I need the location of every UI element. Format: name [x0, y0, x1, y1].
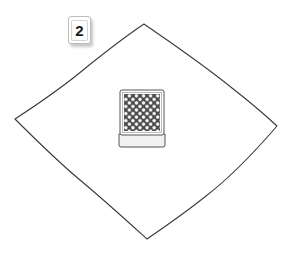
step-number-badge: 2	[68, 16, 91, 44]
instruction-illustration: 2	[0, 0, 289, 264]
play-area-diagram	[0, 0, 289, 264]
card-deck-icon	[119, 90, 165, 147]
step-number: 2	[75, 23, 83, 38]
